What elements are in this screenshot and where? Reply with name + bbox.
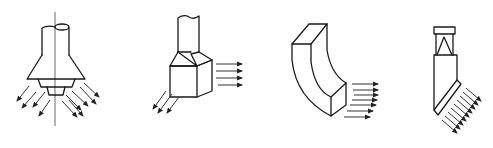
figure-c-curved-elbow <box>292 24 378 117</box>
outflow-arrows <box>344 84 378 117</box>
transition-inner-edges <box>178 52 199 66</box>
arrow <box>17 86 29 101</box>
arrow <box>153 91 166 109</box>
arrow <box>451 108 466 121</box>
neck-triangle <box>437 37 452 55</box>
arrow <box>33 92 45 107</box>
arrow <box>466 88 481 101</box>
arrow <box>454 104 469 117</box>
arrow <box>80 87 96 104</box>
box-side-face <box>197 60 212 97</box>
cone-body <box>27 55 85 79</box>
arrow <box>442 120 457 133</box>
pipe <box>178 16 199 52</box>
outflow-arrows <box>442 88 481 133</box>
arrow <box>448 112 463 125</box>
tier-2 <box>38 79 75 87</box>
mesh-outlet <box>331 83 346 116</box>
arrow <box>445 116 460 129</box>
box-front-face <box>170 66 197 97</box>
tier-3 <box>47 87 65 95</box>
top-cap <box>434 27 455 34</box>
arrow <box>84 83 99 97</box>
figure-b-transition-outlet <box>153 16 242 113</box>
nozzle-diagrams <box>0 0 493 148</box>
figure-a-conical-diffuser <box>17 12 99 126</box>
diagram-canvas: Types of local exhaust / air outlet nozz… <box>0 0 493 148</box>
arrow <box>158 94 172 113</box>
body <box>434 55 457 110</box>
arrow <box>460 96 475 109</box>
outflow-arrows <box>17 83 99 117</box>
pipe <box>42 24 69 55</box>
figure-d-slot-nozzle <box>434 27 481 133</box>
slanted-slot <box>434 80 461 115</box>
top-opening <box>292 24 327 44</box>
arrow <box>69 100 83 116</box>
arrow <box>457 100 472 113</box>
arrow <box>39 100 50 116</box>
inner-curve-back <box>327 24 346 83</box>
arrow <box>167 97 179 113</box>
arrow <box>463 92 478 105</box>
